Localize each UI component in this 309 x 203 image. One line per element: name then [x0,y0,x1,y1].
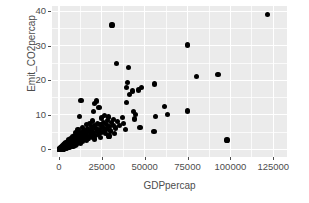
data-point [120,115,125,120]
data-point [92,136,97,141]
x-tick-mark [230,157,231,160]
gridline-major-horizontal [52,45,287,46]
x-tick-label: 125000 [243,162,303,172]
data-point [127,92,132,97]
data-point [136,87,141,92]
data-point [162,104,167,109]
x-tick-mark [273,157,274,160]
data-point [77,114,82,119]
gridline-major-vertical [58,6,59,157]
x-tick-mark [145,157,146,160]
data-point [224,137,229,142]
data-point [109,22,114,27]
gridline-major-vertical [273,6,274,157]
data-point [265,12,270,17]
gridline-major-horizontal [52,149,287,150]
y-tick-label: 0 [12,144,46,154]
data-point [185,108,190,113]
data-point [106,133,111,138]
y-tick-label: 20 [12,75,46,85]
data-point [113,125,118,130]
y-tick-mark [48,11,51,12]
gridline-major-horizontal [52,80,287,81]
x-tick-mark [59,157,60,160]
data-point [151,129,156,134]
data-point [194,74,199,79]
gridline-minor-vertical [123,6,124,157]
data-point [98,135,103,140]
gridline-minor-vertical [209,6,210,157]
gridline-major-vertical [230,6,231,157]
gridline-major-vertical [187,6,188,157]
data-point [78,98,83,103]
data-point [126,65,131,70]
data-point [96,105,101,110]
data-point [124,100,129,105]
gridline-major-horizontal [52,11,287,12]
data-point [132,116,137,121]
plot-panel [52,6,287,157]
data-point [112,131,117,136]
data-point [124,85,129,90]
data-point [185,42,190,47]
gridline-minor-vertical [251,6,252,157]
x-axis-title: GDPpercap [52,180,287,191]
y-tick-label: 40 [12,6,46,16]
y-tick-mark [48,149,51,150]
y-tick-mark [48,46,51,47]
gridline-minor-vertical [166,6,167,157]
data-point [137,125,142,130]
x-tick-mark [102,157,103,160]
y-tick-label: 10 [12,110,46,120]
data-point [165,112,170,117]
data-point [91,109,96,114]
y-tick-label: 30 [12,41,46,51]
data-point [153,114,158,119]
x-tick-mark [188,157,189,160]
data-point [215,72,220,77]
data-point [152,81,157,86]
y-tick-mark [48,80,51,81]
y-tick-mark [48,115,51,116]
scatter-plot-figure: Emit_CO2percap GDPpercap 010203040 02500… [0,0,309,203]
data-point [114,61,119,66]
gridline-major-vertical [144,6,145,157]
